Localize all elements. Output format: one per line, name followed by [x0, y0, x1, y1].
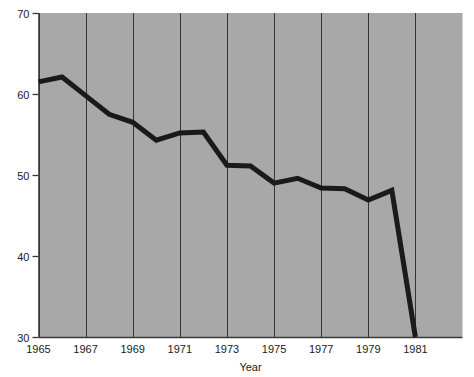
x-axis-tick-labels: 196519671969197119731975197719791981: [26, 343, 427, 355]
y-axis-tick-label: 70: [17, 8, 29, 20]
line-chart: 3040506070 19651967196919711973197519771…: [0, 0, 474, 377]
y-axis-tick-label: 50: [17, 170, 29, 182]
y-axis-tick-label: 40: [17, 251, 29, 263]
x-axis-tick-label: 1981: [403, 343, 427, 355]
x-axis-title: Year: [239, 361, 262, 373]
x-axis-tick-label: 1973: [215, 343, 239, 355]
x-axis-tick-label: 1967: [73, 343, 97, 355]
x-axis-tick-label: 1969: [120, 343, 144, 355]
x-axis-tick-label: 1979: [356, 343, 380, 355]
y-axis-tick-label: 30: [17, 332, 29, 344]
x-axis-tick-label: 1975: [262, 343, 286, 355]
plot-area: [39, 13, 463, 337]
y-axis-tick-label: 60: [17, 89, 29, 101]
x-axis-tick-label: 1971: [168, 343, 192, 355]
chart-container: 3040506070 19651967196919711973197519771…: [0, 0, 474, 377]
x-axis-tick-label: 1977: [309, 343, 333, 355]
x-axis-tick-label: 1965: [26, 343, 50, 355]
